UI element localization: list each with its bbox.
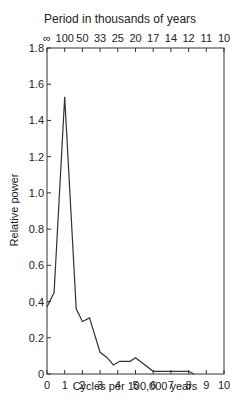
chart-plot-area <box>0 0 240 420</box>
y-tick-label: 0 <box>38 368 44 380</box>
x-tick-label: 8 <box>186 379 192 391</box>
top-tick-label: 10 <box>218 32 230 44</box>
x-tick-label: 2 <box>79 379 85 391</box>
plot-frame <box>47 48 224 374</box>
top-tick-label: 25 <box>112 32 124 44</box>
x-tick-label: 3 <box>97 379 103 391</box>
top-tick-label: 33 <box>94 32 106 44</box>
top-tick-label: 14 <box>165 32 177 44</box>
y-tick-label: 1.0 <box>29 187 44 199</box>
top-tick-label: 12 <box>182 32 194 44</box>
top-tick-label: 20 <box>129 32 141 44</box>
x-tick-label: 6 <box>150 379 156 391</box>
y-tick-label: 0.8 <box>29 223 44 235</box>
y-tick-label: 0.6 <box>29 259 44 271</box>
x-tick-label: 4 <box>115 379 121 391</box>
y-tick-label: 1.6 <box>29 78 44 90</box>
top-tick-label: 100 <box>56 32 74 44</box>
top-tick-label: 11 <box>201 32 212 44</box>
y-tick-label: 0.2 <box>29 332 44 344</box>
x-tick-label: 9 <box>203 379 209 391</box>
x-tick-label: 1 <box>62 379 68 391</box>
top-tick-label: 17 <box>147 32 159 44</box>
x-tick-label: 0 <box>44 379 50 391</box>
y-tick-label: 1.4 <box>29 114 44 126</box>
power-spectrum-line <box>47 97 194 374</box>
top-tick-label: ∞ <box>43 32 51 44</box>
top-tick-label: 50 <box>76 32 88 44</box>
x-tick-label: 5 <box>132 379 138 391</box>
x-tick-label: 10 <box>218 379 230 391</box>
y-tick-label: 0.4 <box>29 296 44 308</box>
y-tick-label: 1.8 <box>29 42 44 54</box>
y-tick-label: 1.2 <box>29 151 44 163</box>
x-tick-label: 7 <box>168 379 174 391</box>
